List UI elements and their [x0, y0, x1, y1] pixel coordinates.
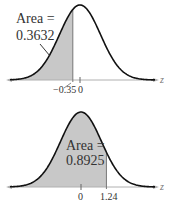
area-value: 0.8925	[66, 153, 105, 168]
bottom-normal-curve-panel: Area = 0.8925 0 1.24 z	[6, 112, 164, 202]
annotation-leader-line	[40, 44, 50, 56]
area-label-line1: Area =	[16, 11, 55, 26]
tick-label-zero: 0	[78, 191, 83, 202]
area-label-line1: Area =	[66, 138, 105, 153]
normal-distribution-figure: Area = 0.3632 −0.35 0 z Area = 0.8925 0 …	[0, 0, 176, 213]
top-normal-curve-panel: Area = 0.3632 −0.35 0 z	[6, 5, 164, 95]
area-value: 0.3632	[16, 28, 55, 43]
z-axis-label: z	[159, 74, 164, 85]
z-axis-label: z	[159, 181, 164, 192]
tick-label-zero: 0	[78, 84, 83, 95]
tick-label-cutoff: 1.24	[100, 191, 118, 202]
tick-label-cutoff: −0.35	[53, 84, 76, 95]
